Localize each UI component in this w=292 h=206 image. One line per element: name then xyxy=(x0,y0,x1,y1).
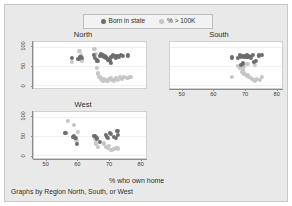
data-point xyxy=(75,142,79,146)
gridline xyxy=(34,155,146,156)
data-point xyxy=(116,146,120,150)
y-tick-label: 100 xyxy=(21,111,27,120)
legend-label-born-in-state: Born in state xyxy=(109,18,146,25)
legend-label-pct-over-100k: % > 100K xyxy=(167,18,195,25)
data-point xyxy=(106,136,110,140)
x-tick-label: 60 xyxy=(74,162,80,168)
y-tick-label: 0 xyxy=(21,84,27,87)
data-point xyxy=(126,53,130,57)
x-axis-west: 50607080 xyxy=(33,159,147,171)
data-point xyxy=(251,53,255,57)
data-point xyxy=(108,61,112,65)
legend-entry-pct-over-100k: % > 100K xyxy=(159,18,195,25)
gridline xyxy=(34,117,146,118)
data-point xyxy=(96,59,100,63)
data-point xyxy=(70,56,74,60)
y-tick-label: 50 xyxy=(21,133,27,139)
y-tick-label: 100 xyxy=(21,41,27,50)
data-point xyxy=(121,54,125,58)
data-point xyxy=(70,60,74,64)
x-axis-line xyxy=(33,159,147,160)
data-point xyxy=(66,119,70,123)
panel-title-north: North xyxy=(19,31,147,39)
panel-south: South 50607080 xyxy=(155,31,283,91)
panel-title-south: South xyxy=(155,31,283,39)
data-point xyxy=(254,59,258,63)
data-point xyxy=(63,131,67,135)
x-tick-label: 80 xyxy=(274,92,280,98)
data-point xyxy=(128,75,132,79)
gridline xyxy=(170,66,282,67)
data-point xyxy=(260,75,264,79)
legend-entry-born-in-state: Born in state xyxy=(101,18,146,25)
panel-title-west: West xyxy=(19,101,147,109)
x-tick-label: 50 xyxy=(43,162,49,168)
x-tick-label: 60 xyxy=(210,92,216,98)
chart-legend: Born in state % > 100K xyxy=(83,14,213,29)
plot-area-west xyxy=(33,111,147,159)
data-point xyxy=(260,53,264,57)
graph-caption: Graphs by Region North, South, or West xyxy=(11,189,133,196)
gridline xyxy=(170,47,282,48)
data-point xyxy=(230,74,234,78)
x-tick-label: 50 xyxy=(179,92,185,98)
x-tick-label: 80 xyxy=(138,162,144,168)
data-point xyxy=(96,145,100,149)
x-axis-label: % who own home xyxy=(109,177,164,184)
gridline xyxy=(170,85,282,86)
data-point xyxy=(94,66,98,70)
legend-marker-dark-icon xyxy=(101,19,106,24)
gridline xyxy=(34,47,146,48)
panel-west: West 050100 50607080 xyxy=(19,101,147,167)
gridline xyxy=(34,136,146,137)
data-point xyxy=(230,55,234,59)
gridline xyxy=(34,66,146,67)
y-tick-label: 0 xyxy=(21,154,27,157)
data-point xyxy=(75,130,79,134)
y-tick-label: 50 xyxy=(21,63,27,69)
stata-graph-figure: Born in state % > 100K North 050100 Sout… xyxy=(4,4,288,202)
gridline xyxy=(34,85,146,86)
panel-north: North 050100 xyxy=(19,31,147,91)
x-tick-label: 70 xyxy=(106,162,112,168)
plot-area-south xyxy=(169,41,283,89)
x-axis-line xyxy=(169,89,283,90)
data-point xyxy=(72,123,76,127)
x-axis-south: 50607080 xyxy=(169,89,283,101)
plot-area-north xyxy=(33,41,147,89)
data-point xyxy=(92,46,96,50)
legend-marker-light-icon xyxy=(159,19,164,24)
x-tick-label: 70 xyxy=(242,92,248,98)
y-axis-west: 050100 xyxy=(19,111,33,159)
y-axis-north: 050100 xyxy=(19,41,33,89)
